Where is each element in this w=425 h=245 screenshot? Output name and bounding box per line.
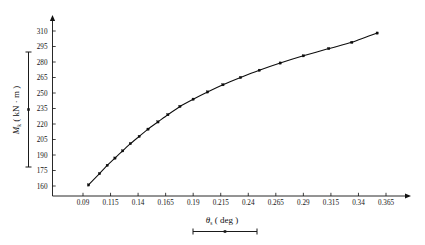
data-point-marker xyxy=(122,150,124,152)
data-curve xyxy=(89,33,378,185)
y-tick-label: 160 xyxy=(37,183,48,191)
data-point-marker xyxy=(239,76,241,78)
data-point-marker xyxy=(129,142,131,144)
data-point-marker xyxy=(157,121,159,123)
y-axis-title-units: ( kN · m ) xyxy=(11,86,21,124)
chart-plot: 0.090.1150.140.1650.190.2150.240.2650.29… xyxy=(0,0,425,245)
x-tick-label: 0.315 xyxy=(323,199,340,207)
data-series-group xyxy=(87,32,378,186)
x-tick-label: 0.115 xyxy=(103,199,119,207)
data-point-marker xyxy=(222,84,224,86)
data-point-marker xyxy=(376,32,378,34)
data-point-marker xyxy=(98,172,100,174)
y-tick-label: 265 xyxy=(37,74,48,82)
data-point-marker xyxy=(302,55,304,57)
data-point-marker xyxy=(87,184,89,186)
x-tick-label: 0.265 xyxy=(268,199,285,207)
x-axis-title: θs ( deg ) xyxy=(193,215,257,235)
x-tick-label: 0.215 xyxy=(213,199,230,207)
x-tick-label: 0.34 xyxy=(352,199,365,207)
y-tick-label: 220 xyxy=(37,121,48,129)
data-point-marker xyxy=(192,98,194,100)
data-point-marker xyxy=(167,114,169,116)
data-point-marker xyxy=(114,157,116,159)
y-title-rule-group xyxy=(26,52,32,167)
data-point-marker xyxy=(279,62,281,64)
y-tick-label: 250 xyxy=(37,90,48,98)
data-point-marker xyxy=(138,135,140,137)
y-tick-label: 295 xyxy=(37,43,48,51)
y-tick-label: 175 xyxy=(37,167,48,175)
data-point-marker xyxy=(206,91,208,93)
x-axis-ticks: 0.090.1150.140.1650.190.2150.240.2650.29… xyxy=(77,193,395,207)
x-title-rule-dot xyxy=(224,230,227,233)
x-tick-label: 0.29 xyxy=(297,199,310,207)
y-tick-label: 190 xyxy=(37,152,48,160)
data-point-marker xyxy=(328,47,330,49)
y-axis-title-text: Mk ( kN · m ) xyxy=(11,86,22,135)
data-point-marker xyxy=(147,128,149,130)
x-axis-arrowhead xyxy=(405,193,411,198)
axes-group xyxy=(50,15,411,199)
x-tick-label: 0.165 xyxy=(158,199,175,207)
figure-canvas: 0.090.1150.140.1650.190.2150.240.2650.29… xyxy=(0,0,425,245)
x-tick-label: 0.14 xyxy=(132,199,145,207)
data-point-marker xyxy=(258,69,260,71)
data-point-marker xyxy=(106,164,108,166)
y-axis-title: Mk ( kN · m ) xyxy=(11,86,22,135)
x-tick-label: 0.24 xyxy=(242,199,255,207)
x-axis-title-text: θs ( deg ) xyxy=(206,215,238,226)
x-tick-label: 0.09 xyxy=(77,199,90,207)
x-axis-title-units: ( deg ) xyxy=(212,215,238,225)
y-tick-label: 205 xyxy=(37,136,48,144)
y-tick-label: 310 xyxy=(37,28,48,36)
data-point-marker xyxy=(179,105,181,107)
y-tick-label: 280 xyxy=(37,59,48,67)
x-tick-label: 0.365 xyxy=(378,199,395,207)
x-tick-label: 0.19 xyxy=(187,199,200,207)
data-point-marker xyxy=(351,41,353,43)
y-axis-arrowhead xyxy=(50,15,55,21)
y-title-rule-dot xyxy=(27,108,30,111)
y-tick-label: 235 xyxy=(37,105,48,113)
